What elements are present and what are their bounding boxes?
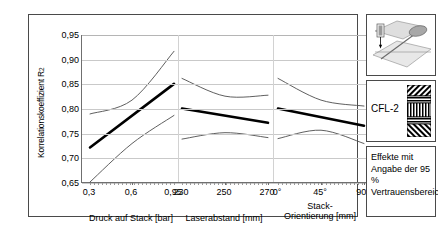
x-minor-tick xyxy=(282,183,283,185)
effect-line xyxy=(182,109,268,123)
x-minor-tick xyxy=(102,183,103,185)
x-axis-ticks: 0,30,60,952302502700°45°90° xyxy=(81,187,369,199)
x-minor-tick xyxy=(346,183,347,185)
x-minor-tick xyxy=(262,183,263,185)
x-minor-tick xyxy=(90,183,91,185)
x-minor-tick xyxy=(230,183,231,185)
x-minor-tick xyxy=(238,183,239,185)
x-tick-label: 0,3 xyxy=(83,187,96,197)
apparatus-diagram-box xyxy=(366,14,436,76)
x-minor-tick xyxy=(154,183,155,185)
x-minor-tick xyxy=(278,183,279,185)
y-axis-ticks: 0,950,900,850,800,750,700,65 xyxy=(49,15,79,216)
x-minor-tick xyxy=(170,183,171,185)
y-tick-label: 0,80 xyxy=(51,104,79,114)
figure-root: Korrelationskoeffizient R2 0,950,900,850… xyxy=(0,0,438,235)
confidence-line xyxy=(182,78,268,97)
confidence-line xyxy=(90,115,174,182)
x-minor-tick xyxy=(358,183,359,185)
x-minor-tick xyxy=(362,183,363,185)
x-tick-label: 250 xyxy=(216,187,231,197)
grid-line xyxy=(82,84,369,85)
y-tick-label: 0,95 xyxy=(51,30,79,40)
x-minor-tick xyxy=(166,183,167,185)
x-tick-mark xyxy=(132,182,133,185)
x-minor-tick xyxy=(198,183,199,185)
x-minor-tick xyxy=(106,183,107,185)
laser-apparatus-icon xyxy=(367,15,435,75)
x-minor-tick xyxy=(258,183,259,185)
x-tick-label: 0,6 xyxy=(125,187,138,197)
x-minor-tick xyxy=(142,183,143,185)
x-minor-tick xyxy=(110,183,111,185)
x-minor-tick xyxy=(334,183,335,185)
legend-text: Effekte mit Angabe der 95 % Vertrauensbe… xyxy=(371,152,433,198)
panel-caption: Druck auf Stack [bar] xyxy=(89,213,173,223)
x-minor-tick xyxy=(310,183,311,185)
x-minor-tick xyxy=(294,183,295,185)
specimen-label: CFL-2 xyxy=(371,103,399,114)
panel-separator xyxy=(178,35,179,182)
x-minor-tick xyxy=(114,183,115,185)
composite-stack-icon xyxy=(407,85,431,137)
x-minor-tick xyxy=(190,183,191,185)
x-minor-tick xyxy=(298,183,299,185)
x-minor-tick xyxy=(174,183,175,185)
x-minor-tick xyxy=(338,183,339,185)
x-tick-label: 0° xyxy=(273,187,282,197)
x-minor-tick xyxy=(186,183,187,185)
x-minor-tick xyxy=(206,183,207,185)
panel-captions: Druck auf Stack [bar]Laserabstand [mm]St… xyxy=(81,201,369,227)
x-tick-label: 230 xyxy=(173,187,188,197)
grid-line xyxy=(82,134,369,135)
x-minor-tick xyxy=(354,183,355,185)
confidence-line xyxy=(278,78,364,106)
panel-separator xyxy=(273,35,274,182)
x-minor-tick xyxy=(290,183,291,185)
confidence-line xyxy=(278,130,364,143)
page-caption-strip xyxy=(22,225,422,235)
grid-line xyxy=(82,109,369,110)
x-minor-tick xyxy=(318,183,319,185)
x-minor-tick xyxy=(162,183,163,185)
y-axis-title: Korrelationskoeffizient R2 xyxy=(34,48,48,178)
x-minor-tick xyxy=(126,183,127,185)
x-minor-tick xyxy=(286,183,287,185)
x-minor-tick xyxy=(254,183,255,185)
x-minor-tick xyxy=(218,183,219,185)
x-minor-tick xyxy=(130,183,131,185)
x-minor-tick xyxy=(118,183,119,185)
x-tick-label: 45° xyxy=(313,187,327,197)
x-minor-tick xyxy=(138,183,139,185)
x-minor-tick xyxy=(234,183,235,185)
y-tick-label: 0,85 xyxy=(51,79,79,89)
x-minor-tick xyxy=(202,183,203,185)
x-minor-tick xyxy=(194,183,195,185)
x-tick-mark xyxy=(364,182,365,185)
x-minor-tick xyxy=(266,183,267,185)
x-minor-tick xyxy=(98,183,99,185)
confidence-line xyxy=(90,51,174,114)
grid-line xyxy=(82,158,369,159)
grid-line xyxy=(82,60,369,61)
y-tick-label: 0,70 xyxy=(51,153,79,163)
y-tick-label: 0,90 xyxy=(51,55,79,65)
x-minor-tick xyxy=(242,183,243,185)
effect-line xyxy=(278,109,364,126)
x-minor-tick xyxy=(314,183,315,185)
x-minor-tick xyxy=(322,183,323,185)
x-minor-tick xyxy=(158,183,159,185)
y-tick-label: 0,65 xyxy=(51,178,79,188)
panel-caption: Laserabstand [mm] xyxy=(185,213,262,223)
x-tick-mark xyxy=(268,182,269,185)
x-minor-tick xyxy=(306,183,307,185)
x-minor-tick xyxy=(210,183,211,185)
x-minor-tick xyxy=(214,183,215,185)
effect-line xyxy=(90,84,174,148)
x-minor-tick xyxy=(222,183,223,185)
x-minor-tick xyxy=(342,183,343,185)
plot-area xyxy=(81,35,369,183)
x-minor-tick xyxy=(146,183,147,185)
x-minor-tick xyxy=(226,183,227,185)
specimen-box: CFL-2 xyxy=(366,80,436,142)
